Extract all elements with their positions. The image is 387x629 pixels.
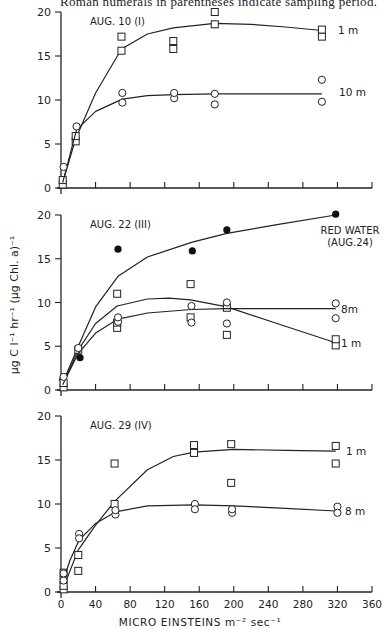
square-marker bbox=[332, 442, 339, 449]
panel-title: AUG. 22 (III) bbox=[90, 219, 151, 230]
y-tick-label: 0 bbox=[44, 384, 51, 397]
square-marker bbox=[332, 460, 339, 467]
x-tick-label: 320 bbox=[327, 598, 347, 610]
y-axis-title: μg C l⁻¹ hr⁻¹ (μg Chl. a)⁻¹ bbox=[8, 236, 21, 374]
series-label: 1 m bbox=[341, 337, 361, 349]
square-marker bbox=[223, 331, 230, 338]
y-tick-label: 10 bbox=[37, 94, 51, 107]
panel-title: AUG. 10 (I) bbox=[90, 16, 145, 27]
x-tick-label: 80 bbox=[123, 598, 136, 610]
series-label: 1 m bbox=[346, 445, 366, 457]
series-label: 8m bbox=[341, 303, 358, 315]
fit-curve bbox=[63, 505, 336, 583]
circle-marker bbox=[318, 76, 325, 83]
fit-curve bbox=[63, 298, 336, 385]
y-tick-label: 10 bbox=[37, 498, 51, 511]
filled-circle-marker bbox=[114, 246, 121, 253]
square-marker bbox=[228, 479, 235, 486]
square-marker bbox=[75, 567, 82, 574]
circle-marker bbox=[114, 314, 121, 321]
circle-marker bbox=[119, 99, 126, 106]
square-marker bbox=[332, 336, 339, 343]
circle-marker bbox=[223, 299, 230, 306]
filled-circle-marker bbox=[223, 226, 230, 233]
x-tick-label: 0 bbox=[58, 598, 65, 610]
square-marker bbox=[187, 281, 194, 288]
circle-marker bbox=[119, 89, 126, 96]
circle-marker bbox=[211, 101, 218, 108]
circle-marker bbox=[73, 123, 80, 130]
panel-1: 05101520AUG. 10 (I)1 m10 m bbox=[37, 6, 372, 195]
circle-marker bbox=[112, 507, 119, 514]
y-tick-label: 5 bbox=[44, 138, 51, 151]
x-tick-label: 200 bbox=[224, 598, 244, 610]
x-tick-label: 240 bbox=[258, 598, 278, 610]
square-marker bbox=[170, 45, 177, 52]
square-marker bbox=[211, 9, 218, 16]
circle-marker bbox=[60, 570, 67, 577]
circle-marker bbox=[76, 535, 83, 542]
circle-marker bbox=[228, 506, 235, 513]
y-tick-label: 0 bbox=[44, 586, 51, 599]
y-tick-label: 15 bbox=[37, 454, 51, 467]
circle-marker bbox=[60, 373, 67, 380]
circle-marker bbox=[211, 90, 218, 97]
y-tick-label: 0 bbox=[44, 182, 51, 195]
fit-curve bbox=[63, 215, 336, 383]
circle-marker bbox=[188, 319, 195, 326]
x-tick-label: 360 bbox=[362, 598, 382, 610]
x-tick-label: 160 bbox=[189, 598, 209, 610]
annotation-red-water-date: (AUG.24) bbox=[327, 237, 373, 248]
square-marker bbox=[211, 21, 218, 28]
x-tick-label: 120 bbox=[155, 598, 175, 610]
x-tick-label: 40 bbox=[89, 598, 102, 610]
fit-curve bbox=[63, 94, 322, 183]
x-tick-label: 280 bbox=[293, 598, 313, 610]
square-marker bbox=[318, 33, 325, 40]
square-marker bbox=[111, 460, 118, 467]
y-tick-label: 5 bbox=[44, 340, 51, 353]
y-tick-label: 15 bbox=[37, 253, 51, 266]
fit-curve bbox=[63, 309, 336, 385]
square-marker bbox=[170, 38, 177, 45]
y-tick-label: 5 bbox=[44, 542, 51, 555]
circle-marker bbox=[223, 320, 230, 327]
square-marker bbox=[114, 290, 121, 297]
series-label: 10 m bbox=[339, 86, 366, 98]
circle-marker bbox=[318, 98, 325, 105]
circle-marker bbox=[171, 89, 178, 96]
circle-marker bbox=[332, 300, 339, 307]
circle-marker bbox=[334, 509, 341, 516]
y-tick-label: 15 bbox=[37, 50, 51, 63]
square-marker bbox=[191, 449, 198, 456]
series-label: 8 m bbox=[345, 505, 365, 517]
circle-marker bbox=[191, 506, 198, 513]
fit-curve bbox=[63, 23, 322, 182]
filled-circle-marker bbox=[189, 247, 196, 254]
circle-marker bbox=[60, 163, 67, 170]
panel-2: 05101520AUG. 22 (III)RED WATER(AUG.24)1 … bbox=[37, 209, 380, 397]
square-marker bbox=[318, 26, 325, 33]
circle-marker bbox=[332, 315, 339, 322]
circle-marker bbox=[188, 302, 195, 309]
panel-3: 0510152004080120160200240280320360AUG. 2… bbox=[37, 410, 382, 610]
square-marker bbox=[191, 442, 198, 449]
square-marker bbox=[228, 441, 235, 448]
y-tick-label: 20 bbox=[37, 6, 51, 19]
y-tick-label: 20 bbox=[37, 209, 51, 222]
filled-circle-marker bbox=[332, 211, 339, 218]
circle-marker bbox=[75, 344, 82, 351]
annotation-red-water: RED WATER bbox=[321, 225, 380, 236]
x-axis-title: MICRO EINSTEINS m⁻² sec⁻¹ bbox=[119, 616, 281, 628]
square-marker bbox=[118, 47, 125, 54]
panel-title: AUG. 29 (IV) bbox=[90, 420, 152, 431]
y-tick-label: 10 bbox=[37, 297, 51, 310]
series-label: 1 m bbox=[338, 24, 358, 36]
square-marker bbox=[118, 33, 125, 40]
figure: 05101520AUG. 10 (I)1 m10 m05101520AUG. 2… bbox=[0, 0, 387, 629]
square-marker bbox=[75, 552, 82, 559]
y-tick-label: 20 bbox=[37, 410, 51, 423]
circle-marker bbox=[60, 577, 67, 584]
